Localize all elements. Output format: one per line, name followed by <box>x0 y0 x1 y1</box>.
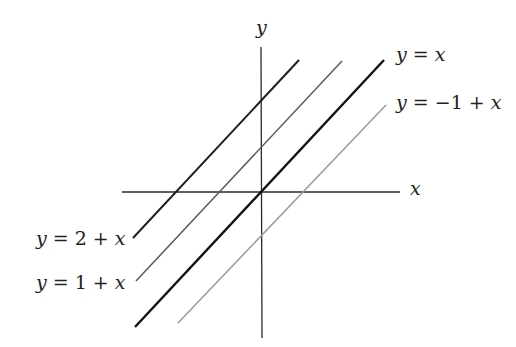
label-y-minus-1-plus-x: y = −1 + x <box>395 91 502 113</box>
y-axis-label: y <box>255 16 267 38</box>
line-y-2-plus-x <box>133 60 299 238</box>
label-y-x: y = x <box>395 43 446 65</box>
label-y-2-plus-x: y = 2 + x <box>35 227 126 249</box>
line-y-x <box>135 60 384 327</box>
label-y-1-plus-x: y = 1 + x <box>35 271 126 293</box>
x-axis-label: x <box>410 177 421 199</box>
line-y-minus-1-plus-x <box>178 105 386 323</box>
diagram-svg: y x y = 2 + x y = 1 + x y = x y = −1 + x <box>0 0 516 347</box>
diagram-canvas: y x y = 2 + x y = 1 + x y = x y = −1 + x <box>0 0 516 347</box>
line-y-1-plus-x <box>136 61 342 281</box>
